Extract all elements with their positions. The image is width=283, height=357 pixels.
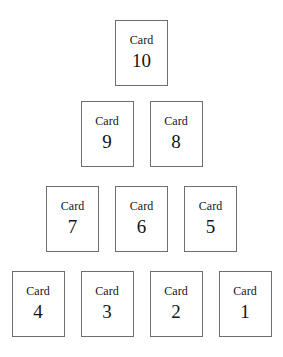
card-2[interactable]: Card 2 [150,271,203,337]
card-label: Card [61,200,85,214]
card-1[interactable]: Card 1 [219,271,272,337]
card-number: 1 [240,301,250,323]
card-8[interactable]: Card 8 [150,101,203,167]
card-4[interactable]: Card 4 [12,271,65,337]
card-label: Card [199,200,223,214]
card-pyramid-canvas: Card 10 Card 9 Card 8 Card 7 Card 6 Card… [0,0,283,357]
card-label: Card [130,34,154,48]
card-5[interactable]: Card 5 [184,186,237,252]
card-3[interactable]: Card 3 [81,271,134,337]
card-number: 6 [137,216,147,238]
card-10[interactable]: Card 10 [115,20,168,86]
card-label: Card [164,285,188,299]
card-9[interactable]: Card 9 [81,101,134,167]
card-number: 5 [206,216,216,238]
card-number: 8 [171,131,181,153]
card-number: 9 [102,131,112,153]
card-number: 2 [171,301,181,323]
card-label: Card [233,285,257,299]
card-label: Card [95,115,119,129]
card-row-4: Card 4 Card 3 Card 2 Card 1 [0,271,283,337]
card-label: Card [26,285,50,299]
card-label: Card [130,200,154,214]
card-label: Card [164,115,188,129]
card-number: 3 [102,301,112,323]
card-label: Card [95,285,119,299]
card-row-3: Card 7 Card 6 Card 5 [0,186,283,252]
card-6[interactable]: Card 6 [115,186,168,252]
card-number: 7 [68,216,78,238]
card-7[interactable]: Card 7 [46,186,99,252]
card-row-2: Card 9 Card 8 [0,101,283,167]
card-row-1: Card 10 [0,20,283,86]
card-number: 10 [132,50,151,72]
card-number: 4 [33,301,43,323]
